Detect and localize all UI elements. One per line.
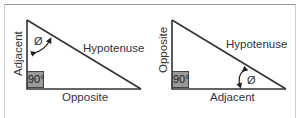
angle-arc-arrow-icon xyxy=(239,70,244,86)
side-label-diagonal: Hypotenuse xyxy=(83,43,144,55)
right-angle-marker: 90° xyxy=(172,71,189,88)
side-label-vertical: Opposite xyxy=(158,27,170,73)
side-label-horizontal: Opposite xyxy=(62,92,108,104)
angle-symbol: Ø xyxy=(34,36,43,47)
side-label-horizontal: Adjacent xyxy=(210,92,255,104)
side-label-diagonal: Hypotenuse xyxy=(226,39,287,51)
side-label-vertical: Adjacent xyxy=(13,31,25,76)
angle-symbol: Ø xyxy=(247,75,256,86)
right-angle-marker: 90° xyxy=(27,71,44,88)
